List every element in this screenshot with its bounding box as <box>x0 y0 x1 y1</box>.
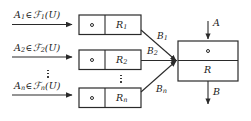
output-block-input-arrow-label: A <box>213 18 220 28</box>
compose-ring-icon-row-1 <box>90 23 94 27</box>
relation-label-row-3: Rn <box>116 93 127 104</box>
ellipsis-left <box>47 68 49 79</box>
input-symbol-row-3: A <box>14 80 21 91</box>
relation-box-row-3 <box>79 88 141 108</box>
input-label-row-2: A2∈ℱ2(U) <box>14 43 60 54</box>
relation-box-row-2 <box>79 50 141 70</box>
family-symbol-row-1: ℱ <box>33 9 41 20</box>
family-arg-row-1: (U) <box>45 9 60 20</box>
input-label-row-1: A1∈ℱ1(U) <box>14 10 60 21</box>
compose-ring-icon-output <box>206 49 210 53</box>
input-label-row-3: An∈ℱn(U) <box>14 81 60 92</box>
output-label-row-2: B2 <box>147 47 158 57</box>
output-label-row-1: B1 <box>157 32 168 42</box>
family-symbol-row-2: ℱ <box>33 42 41 53</box>
family-arg-row-3: (U) <box>45 80 60 91</box>
family-symbol-row-3: ℱ <box>33 80 41 91</box>
output-block-rect <box>178 41 238 81</box>
membership-op-row-2: ∈ <box>25 43 33 53</box>
fuzzy-composition-diagram: A1∈ℱ1(U) R1 B1 A2∈ℱ2(U) R2 B2 An∈ℱn(U) R… <box>0 0 251 121</box>
compose-ring-icon-row-2 <box>90 58 94 62</box>
relation-box-row-1 <box>79 15 141 35</box>
membership-op-row-1: ∈ <box>25 10 33 20</box>
family-arg-row-2: (U) <box>45 42 60 53</box>
output-block-relation-label: R <box>204 65 211 75</box>
compose-ring-icon-row-3 <box>90 96 94 100</box>
input-symbol-row-2: A <box>14 42 21 53</box>
input-symbol-row-1: A <box>14 9 21 20</box>
output-block-output-arrow-label: B <box>213 87 220 97</box>
ellipsis-middle <box>120 73 122 84</box>
relation-label-row-1: R1 <box>116 20 127 31</box>
output-label-row-3: Bn <box>156 85 167 95</box>
relation-label-row-2: R2 <box>116 55 127 66</box>
membership-op-row-3: ∈ <box>25 81 33 91</box>
